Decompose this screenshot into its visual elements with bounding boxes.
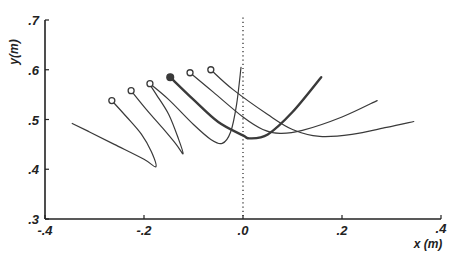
x-tick-label: .4	[436, 221, 448, 236]
trajectory-line	[131, 85, 183, 154]
open-start-marker	[147, 81, 153, 87]
y-tick-label: .4	[28, 162, 40, 177]
trajectory-6	[208, 67, 414, 137]
trajectory-chart: .3.4.5.6.7 -.4-.2.0.2.4 y(m) x (m)	[0, 0, 458, 258]
y-axis-title: y(m)	[7, 39, 21, 65]
x-tick-label: .2	[337, 223, 349, 238]
y-tick-label: .5	[28, 113, 40, 128]
trajectory-line	[170, 77, 321, 138]
open-start-marker	[109, 98, 115, 104]
open-start-marker	[187, 70, 193, 76]
x-axis-title: x (m)	[413, 237, 443, 251]
trajectory-2	[128, 85, 183, 154]
x-tick-label: .0	[238, 223, 250, 238]
x-tick-label: -.4	[37, 223, 53, 238]
open-start-marker	[208, 67, 214, 73]
y-tick-label: .6	[28, 63, 40, 78]
trajectory-line	[211, 70, 414, 137]
trajectory-1	[72, 98, 156, 167]
open-start-marker	[128, 88, 134, 94]
y-tick-label: .7	[28, 13, 40, 28]
trajectory-line	[72, 101, 156, 167]
filled-start-marker	[167, 74, 174, 81]
y-axis: .3.4.5.6.7	[28, 13, 49, 227]
x-axis: -.4-.2.0.2.4	[37, 215, 447, 238]
trajectory-3	[147, 67, 241, 143]
trajectory-4	[167, 74, 321, 139]
x-tick-label: -.2	[136, 223, 152, 238]
